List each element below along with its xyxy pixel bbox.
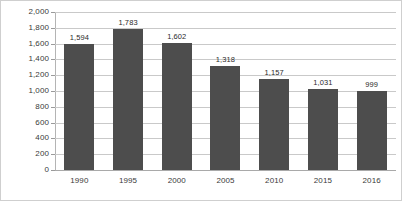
bar[interactable] bbox=[259, 79, 289, 170]
bars-layer: 1,5941,7831,6021,3181,1571,031999 bbox=[55, 12, 396, 170]
bar[interactable] bbox=[308, 89, 338, 170]
y-axis-tick-label: 2,000 bbox=[5, 7, 49, 16]
bar-value-label: 1,594 bbox=[70, 33, 89, 42]
y-axis-tick-label: 200 bbox=[5, 149, 49, 158]
gridline bbox=[55, 170, 396, 171]
bar-slot: 1,783 bbox=[104, 12, 153, 170]
bar[interactable] bbox=[64, 44, 94, 170]
bar-slot: 1,318 bbox=[201, 12, 250, 170]
y-axis-tick-label: 0 bbox=[5, 165, 49, 174]
y-axis-tick-label: 1,400 bbox=[5, 54, 49, 63]
y-axis-tick-label: 1,200 bbox=[5, 70, 49, 79]
bar[interactable] bbox=[210, 66, 240, 170]
y-axis-tick-label: 1,600 bbox=[5, 39, 49, 48]
bar-value-label: 1,157 bbox=[265, 68, 284, 77]
bar[interactable] bbox=[113, 29, 143, 170]
x-axis-tick-label: 2000 bbox=[152, 176, 201, 185]
bar-value-label: 1,318 bbox=[216, 55, 235, 64]
x-axis-tick-label: 2016 bbox=[347, 176, 396, 185]
bar-value-label: 999 bbox=[365, 80, 378, 89]
y-axis-tick-label: 1,000 bbox=[5, 86, 49, 95]
bar-slot: 1,602 bbox=[152, 12, 201, 170]
x-axis-tick-label: 2015 bbox=[299, 176, 348, 185]
x-axis-tick-label: 2010 bbox=[250, 176, 299, 185]
bar-slot: 1,031 bbox=[299, 12, 348, 170]
bar-value-label: 1,031 bbox=[313, 78, 332, 87]
x-axis-tick-label: 1995 bbox=[104, 176, 153, 185]
bar-slot: 1,594 bbox=[55, 12, 104, 170]
y-axis-tick-label: 400 bbox=[5, 133, 49, 142]
bar-chart: 02004006008001,0001,2001,4001,6001,8002,… bbox=[0, 0, 402, 201]
bar-value-label: 1,783 bbox=[118, 18, 137, 27]
bar[interactable] bbox=[162, 43, 192, 170]
x-axis-tick-label: 1990 bbox=[55, 176, 104, 185]
y-axis-tick-label: 600 bbox=[5, 118, 49, 127]
bar-slot: 1,157 bbox=[250, 12, 299, 170]
bar-slot: 999 bbox=[347, 12, 396, 170]
y-axis-tick-label: 1,800 bbox=[5, 23, 49, 32]
bar[interactable] bbox=[357, 91, 387, 170]
y-axis-tick-label: 800 bbox=[5, 102, 49, 111]
x-axis-tick-label: 2005 bbox=[201, 176, 250, 185]
bar-value-label: 1,602 bbox=[167, 32, 186, 41]
